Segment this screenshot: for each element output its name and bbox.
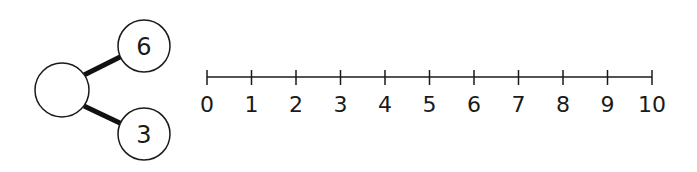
tick-label: 7 [512,92,526,117]
number-line: 012345678910 [200,70,666,117]
whole-circle [35,63,89,117]
tick-label: 0 [200,92,214,117]
tick-label: 4 [378,92,392,117]
part-value-bottom: 3 [136,121,151,149]
connector-top [84,56,122,75]
diagram-canvas: 6 3 012345678910 [0,0,697,172]
connector-bottom [84,106,122,124]
part-circle-top: 6 [118,20,170,72]
part-value-top: 6 [136,33,151,61]
diagram-svg: 6 3 012345678910 [0,0,697,172]
part-circle-bottom: 3 [118,108,170,160]
tick-label: 9 [601,92,615,117]
tick-label: 5 [423,92,437,117]
tick-label: 8 [556,92,570,117]
tick-label: 10 [638,92,666,117]
tick-label: 1 [245,92,259,117]
tick-label: 6 [467,92,481,117]
tick-label: 3 [334,92,348,117]
tick-label: 2 [289,92,303,117]
